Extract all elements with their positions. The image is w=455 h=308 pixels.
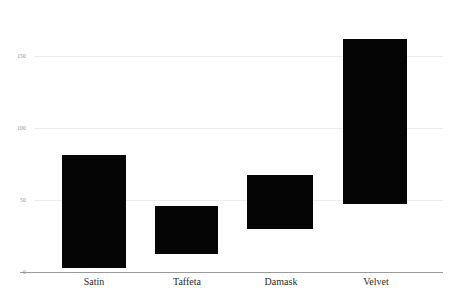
bar-satin[interactable] (62, 155, 126, 268)
y-tick-label-0: 0 (0, 269, 30, 275)
bar-damask[interactable] (247, 175, 313, 229)
x-tick-label-velvet: Velvet (363, 276, 389, 287)
bar-velvet[interactable] (343, 39, 407, 204)
y-tick-label-100: 100 (0, 125, 30, 131)
x-tick-label-satin: Satin (84, 276, 105, 287)
bar-chart: 150 100 50 0 Satin Taffeta Damask Velvet (0, 0, 455, 308)
x-axis-line (20, 272, 443, 273)
plot-area: 150 100 50 0 Satin Taffeta Damask Velvet (0, 0, 455, 308)
x-tick-label-damask: Damask (265, 276, 298, 287)
y-tick-label-50: 50 (0, 197, 30, 203)
x-tick-label-taffeta: Taffeta (173, 276, 201, 287)
y-tick-label-150: 150 (0, 53, 30, 59)
y-axis-tick-labels: 150 100 50 0 (0, 0, 30, 308)
bar-taffeta[interactable] (155, 206, 218, 254)
